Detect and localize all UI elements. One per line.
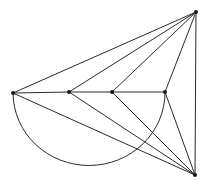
edge-T-A [13,12,196,93]
edge-S-A [13,93,195,175]
edge-S-D [165,92,195,175]
node-S [193,173,197,177]
node-B [67,90,71,94]
nodes-group [11,10,198,177]
node-A [11,91,15,95]
edge-S-C [112,92,195,175]
edge-T-C [112,12,196,92]
node-C [110,90,114,94]
edge-T-S [195,12,196,175]
edge-S-B [69,92,195,175]
node-D [163,90,167,94]
edge-T-B [69,12,196,92]
graph-diagram [0,0,207,185]
edge-A-B [13,92,69,93]
edges-group [13,12,196,175]
node-T [194,10,198,14]
